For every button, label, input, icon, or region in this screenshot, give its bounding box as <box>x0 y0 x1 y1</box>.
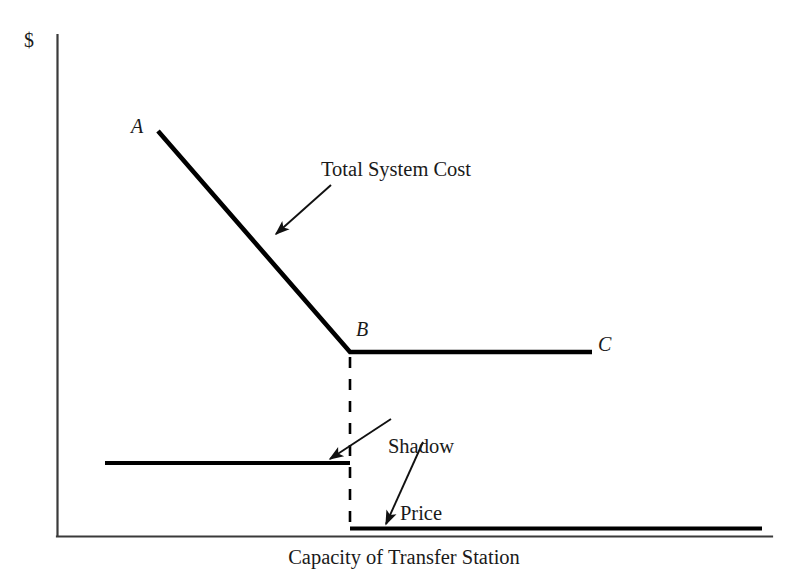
total-system-cost-arrow <box>276 185 331 234</box>
point-label-c: C <box>598 334 611 356</box>
point-label-b: B <box>356 319 368 341</box>
shadow-price-label-line-1: Shadow <box>360 435 482 457</box>
x-axis-label: Capacity of Transfer Station <box>0 546 808 568</box>
shadow-price-label-line-2: Price <box>360 502 482 524</box>
point-label-a: A <box>131 116 143 138</box>
shadow-price-annotation-label: Shadow Price <box>360 391 482 568</box>
total-system-cost-annotation-label: Total System Cost <box>321 158 471 180</box>
figure-canvas: $ A B C Total System Cost Shadow Price C… <box>0 0 808 578</box>
y-axis-label: $ <box>24 30 34 52</box>
